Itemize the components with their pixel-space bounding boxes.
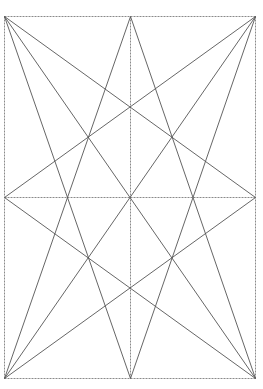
background xyxy=(0,0,263,389)
geometric-line-diagram xyxy=(0,0,263,389)
